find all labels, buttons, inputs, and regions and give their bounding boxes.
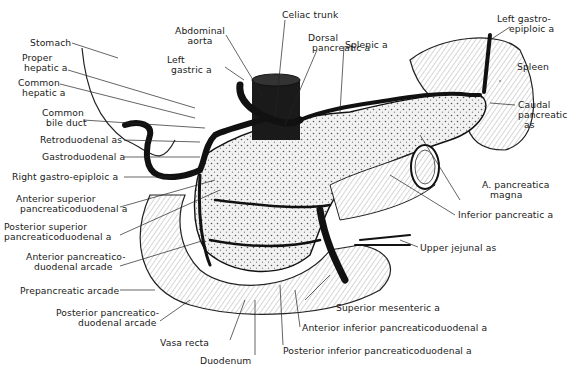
label-anterior-pancreaticoduodenal-arcade: Anterior pancreatico-duodenal arcade xyxy=(26,252,126,272)
label-retroduodenal-as: Retroduodenal as xyxy=(40,135,122,145)
label-inferior-pancreatic-a: Inferior pancreatic a xyxy=(458,210,553,220)
label-duodenum: Duodenum xyxy=(200,356,251,366)
label-posterior-pancreaticoduodenal-arcade: Posterior pancreatico-duodenal arcade xyxy=(56,308,159,328)
label-gastroduodenal-a: Gastroduodenal a xyxy=(42,152,125,162)
label-left-gastro-epiploic-a: Left gastro-epiploic a xyxy=(497,14,554,34)
label-vasa-recta: Vasa recta xyxy=(160,338,209,348)
label-upper-jejunal-as: Upper jejunal as xyxy=(420,243,496,253)
label-posterior-superior-pancreaticoduodenal-a: Posterior superiorpancreaticoduodenal a xyxy=(4,222,111,242)
label-spleen: Spleen xyxy=(517,62,549,72)
label-right-gastro-epiploic-a: Right gastro-epiploic a xyxy=(12,172,118,182)
label-anterior-inferior-pancreaticoduodenal-a: Anterior inferior pancreaticoduodenal a xyxy=(302,323,487,333)
label-abdominal-aorta: Abdominalaorta xyxy=(175,26,225,46)
label-left-gastric-a: Leftgastric a xyxy=(163,55,212,75)
label-common-hepatic-a: Commonhepatic a xyxy=(18,78,66,98)
label-a-pancreatica-magna: A. pancreaticamagna xyxy=(482,180,549,200)
label-caudal-pancreatic-as: Caudalpancreaticas xyxy=(518,100,567,130)
label-splenic-a: Splenic a xyxy=(345,40,388,50)
label-posterior-inferior-pancreaticoduodenal-a: Posterior inferior pancreaticoduodenal a xyxy=(283,346,472,356)
label-prepancreatic-arcade: Prepancreatic arcade xyxy=(20,286,119,296)
label-superior-mesenteric-a: Superior mesenteric a xyxy=(336,303,440,313)
label-common-bile-duct: Commonbile duct xyxy=(42,108,87,128)
label-stomach: Stomach xyxy=(30,38,71,48)
label-celiac-trunk: Celiac trunk xyxy=(282,10,338,20)
label-proper-hepatic-a: Properhepatic a xyxy=(22,53,68,73)
label-anterior-superior-pancreaticoduodenal-a: Anterior superiorpancreaticoduodenal a xyxy=(16,194,127,214)
